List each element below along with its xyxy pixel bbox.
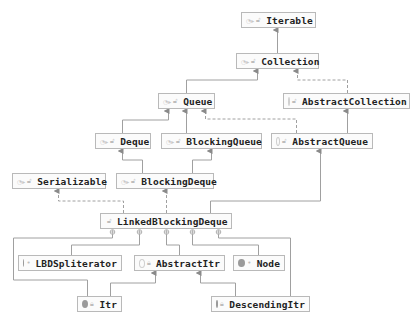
node-queue[interactable]: ◔▸🔓︎ Queue (158, 93, 215, 109)
node-linked-blocking-deque[interactable]: 🔓︎ LinkedBlockingDeque (100, 213, 232, 229)
node-label: AbstractQueue (292, 136, 368, 147)
node-label: Deque (120, 136, 149, 147)
public-lock-icon: 🔓︎ (110, 137, 115, 145)
class-icon (23, 259, 24, 267)
edge-lbd-abstractitr (167, 234, 180, 255)
edge-blockingdeque-blockingqueue (193, 151, 212, 173)
package-private-dot-icon: • (247, 259, 252, 267)
node-descending-itr[interactable]: 🔒︎ DescendingItr (211, 296, 310, 312)
public-lock-icon: 🔓︎ (176, 137, 181, 145)
private-lock-icon: 🔒︎ (220, 300, 224, 308)
edge-abstractqueue-queue (206, 111, 297, 133)
class-icon (216, 300, 218, 308)
edge-itr-abstractitr (111, 273, 156, 296)
edge-lbd-lbdspliterator (72, 234, 140, 255)
node-label: Queue (183, 96, 212, 107)
class-icon (238, 259, 245, 267)
interface-icon: ◔▸ (121, 177, 129, 186)
public-lock-icon: 🔓︎ (27, 177, 32, 185)
interface-icon: ◔▸ (100, 137, 108, 146)
private-lock-icon: 🔒︎ (147, 259, 151, 267)
edges-layer (0, 0, 418, 324)
public-lock-icon: 🔓︎ (256, 16, 261, 24)
node-label: Node (257, 258, 280, 269)
node-node[interactable]: • Node (233, 255, 285, 271)
public-lock-icon: 🔓︎ (292, 97, 297, 105)
package-private-dot-icon: • (26, 259, 30, 267)
interface-icon: ◔▸ (241, 57, 249, 66)
edge-deque-queue (123, 111, 169, 133)
node-label: Itr (100, 299, 117, 310)
interface-icon: ◔▸ (246, 16, 254, 25)
edge-lbd-node (193, 234, 259, 255)
abstract-class-icon (276, 137, 280, 146)
node-label: BlockingQueue (186, 136, 262, 147)
node-blocking-deque[interactable]: ◔▸🔓︎ BlockingDeque (116, 173, 214, 189)
node-collection[interactable]: ◔▸🔓︎ Collection (236, 53, 319, 69)
class-icon (82, 300, 88, 308)
public-lock-icon: 🔓︎ (251, 57, 256, 65)
node-abstract-queue[interactable]: 🔓︎ AbstractQueue (271, 133, 373, 149)
node-lbd-spliterator[interactable]: • LBDSpliterator (18, 255, 122, 271)
node-itr[interactable]: 🔒︎ Itr (77, 296, 122, 312)
node-label: BlockingDeque (141, 176, 217, 187)
edge-lbd-abstractqueue (211, 151, 321, 213)
interface-icon: ◔▸ (166, 137, 174, 146)
private-lock-icon: 🔒︎ (90, 300, 95, 308)
abstract-class-icon (288, 97, 290, 106)
node-serializable[interactable]: ◔▸🔓︎ Serializable (12, 173, 106, 189)
interface-icon: ◔▸ (163, 97, 171, 106)
interface-icon: ◔▸ (17, 177, 25, 186)
edge-abstractcollection-collection (298, 71, 348, 93)
node-label: AbstractCollection (302, 96, 407, 107)
node-label: Collection (261, 56, 319, 67)
edge-queue-collection (187, 71, 258, 93)
node-label: Serializable (37, 176, 107, 187)
public-lock-icon: 🔓︎ (107, 217, 112, 225)
node-abstract-itr[interactable]: 🔒︎ AbstractItr (134, 255, 225, 271)
node-blocking-queue[interactable]: ◔▸🔓︎ BlockingQueue (161, 133, 262, 149)
node-label: DescendingItr (229, 299, 305, 310)
node-iterable[interactable]: ◔▸🔓︎ Iterable (241, 12, 316, 28)
public-lock-icon: 🔓︎ (282, 137, 287, 145)
node-label: Iterable (266, 15, 313, 26)
public-lock-icon: 🔓︎ (131, 177, 136, 185)
edge-descendingitr-abstractitr (201, 273, 236, 296)
abstract-class-icon (139, 259, 145, 268)
node-deque[interactable]: ◔▸🔓︎ Deque (95, 133, 151, 149)
node-label: LinkedBlockingDeque (117, 216, 228, 227)
public-lock-icon: 🔓︎ (173, 97, 178, 105)
edge-lbd-serializable (59, 191, 124, 213)
node-label: LBDSpliterator (36, 258, 117, 269)
node-abstract-collection[interactable]: 🔓︎ AbstractCollection (283, 93, 410, 109)
node-label: AbstractItr (156, 258, 220, 269)
edge-blockingdeque-deque (123, 151, 143, 173)
